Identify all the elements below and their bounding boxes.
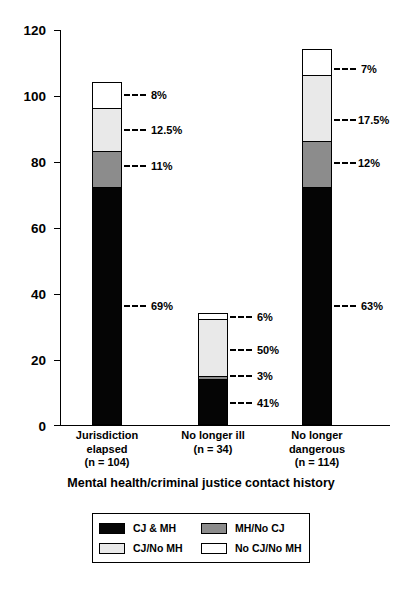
y-tick-label-60: 60 (31, 221, 46, 236)
bar3-segment-cj-no-mh (302, 75, 332, 141)
category-count: (n = 114) (289, 456, 345, 470)
callout-bar3-mh-no-cj: 12% (334, 157, 380, 169)
dash-connector-icon (230, 316, 252, 318)
callout-bar2-cj-no-mh: 50% (230, 344, 279, 356)
category-label-jurisdiction-elapsed: Jurisdiction elapsed (n = 104) (76, 429, 138, 470)
y-tick-120 (54, 30, 61, 31)
y-tick-label-80: 80 (31, 155, 46, 170)
legend-label-mh-no-cj: MH/No CJ (235, 522, 285, 534)
callout-bar3-cj-no-mh: 17.5% (334, 114, 389, 126)
legend-item-cj-no-mh: CJ/No MH (99, 542, 201, 554)
plot-area: 8% 12.5% 11% 69% 6% 50% (60, 30, 390, 426)
stacked-bar-chart: 120 100 80 60 40 20 0 8% 1 (0, 0, 402, 589)
legend-swatch-cj-and-mh (99, 523, 125, 534)
legend-swatch-cj-no-mh (99, 543, 125, 554)
bar1-segment-cj-no-mh (92, 108, 122, 151)
bar3-segment-no-cj-no-mh (302, 49, 332, 75)
x-axis-title: Mental health/criminal justice contact h… (0, 476, 402, 490)
callout-bar2-cj-and-mh: 41% (230, 397, 279, 409)
category-count: (n = 34) (181, 443, 245, 457)
callout-bar3-cj-and-mh: 63% (334, 300, 383, 312)
callout-bar1-mh-no-cj: 11% (124, 160, 172, 172)
category-line1: No longer (289, 429, 345, 443)
x-axis-category-labels: Jurisdiction elapsed (n = 104) No longer… (60, 429, 390, 477)
dash-connector-icon (334, 305, 356, 307)
dash-connector-icon (230, 349, 252, 351)
callout-bar2-mh-no-cj: 3% (230, 370, 273, 382)
callout-bar1-no-cj-no-mh: 8% (124, 89, 167, 101)
category-line1: No longer ill (181, 429, 245, 443)
legend-label-cj-and-mh: CJ & MH (133, 522, 176, 534)
category-line1: Jurisdiction (76, 429, 138, 443)
legend-item-cj-and-mh: CJ & MH (99, 522, 201, 534)
legend-swatch-mh-no-cj (201, 523, 227, 534)
category-label-no-longer-dangerous: No longer dangerous (n = 114) (289, 429, 345, 470)
dash-connector-icon (124, 129, 146, 131)
y-tick-label-40: 40 (31, 287, 46, 302)
y-tick-60 (54, 228, 61, 229)
callout-bar1-cj-no-mh: 12.5% (124, 124, 182, 136)
y-tick-80 (54, 162, 61, 163)
chart-legend: CJ & MH MH/No CJ CJ/No MH No CJ/No MH (92, 513, 310, 563)
bar2-segment-cj-no-mh (198, 319, 228, 375)
y-axis-labels: 120 100 80 60 40 20 0 (0, 30, 54, 426)
bar2-segment-cj-and-mh (198, 379, 228, 425)
legend-swatch-no-cj-no-mh (201, 543, 227, 554)
y-tick-100 (54, 96, 61, 97)
legend-item-mh-no-cj: MH/No CJ (201, 522, 303, 534)
dash-connector-icon (124, 165, 146, 167)
y-tick-label-20: 20 (31, 353, 46, 368)
category-line2: dangerous (289, 443, 345, 457)
category-label-no-longer-ill: No longer ill (n = 34) (181, 429, 245, 456)
bar1-segment-mh-no-cj (92, 151, 122, 187)
bar-no-longer-ill (198, 313, 228, 425)
callout-bar3-no-cj-no-mh: 7% (334, 63, 377, 75)
category-line2: elapsed (76, 443, 138, 457)
legend-label-cj-no-mh: CJ/No MH (133, 542, 183, 554)
y-tick-40 (54, 294, 61, 295)
bar1-segment-cj-and-mh (92, 187, 122, 425)
bar2-segment-no-cj-no-mh (198, 313, 228, 320)
dash-connector-icon (230, 375, 252, 377)
dash-connector-icon (124, 94, 146, 96)
y-tick-label-0: 0 (38, 419, 46, 434)
bar3-segment-cj-and-mh (302, 187, 332, 425)
y-tick-label-120: 120 (23, 23, 46, 38)
callout-bar2-no-cj-no-mh: 6% (230, 311, 273, 323)
y-tick-0 (54, 425, 61, 426)
category-count: (n = 104) (76, 456, 138, 470)
y-tick-label-100: 100 (23, 89, 46, 104)
callout-bar1-cj-and-mh: 69% (124, 300, 173, 312)
legend-label-no-cj-no-mh: No CJ/No MH (235, 542, 302, 554)
bar1-segment-no-cj-no-mh (92, 82, 122, 108)
y-tick-20 (54, 360, 61, 361)
bar-jurisdiction-elapsed (92, 82, 122, 425)
legend-item-no-cj-no-mh: No CJ/No MH (201, 542, 303, 554)
dash-connector-icon (334, 68, 356, 70)
bar3-segment-mh-no-cj (302, 141, 332, 187)
dash-connector-icon (230, 402, 252, 404)
bar-no-longer-dangerous (302, 49, 332, 425)
dash-connector-icon (124, 305, 146, 307)
x-axis-line (60, 425, 390, 426)
dash-connector-icon (334, 162, 356, 164)
dash-connector-icon (334, 119, 356, 121)
